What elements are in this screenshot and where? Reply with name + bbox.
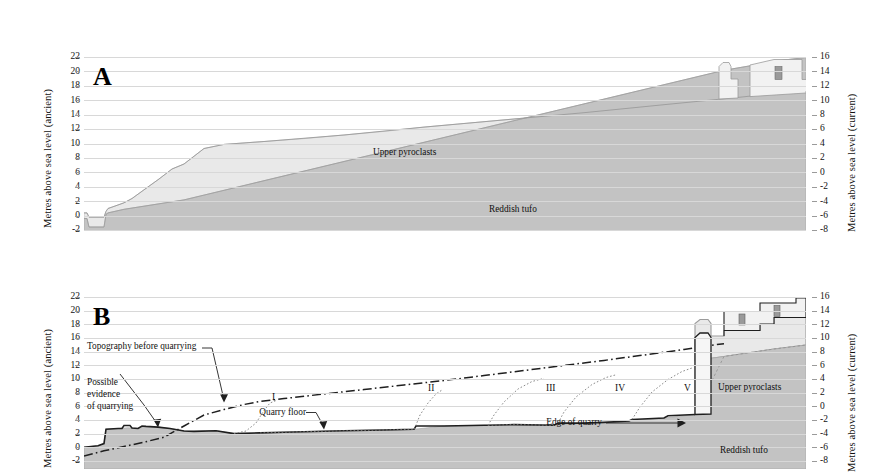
gridlines-a	[84, 57, 806, 231]
axis-tick-label: -2	[820, 415, 828, 425]
axis-tick-label: 14	[820, 306, 830, 316]
axis-tickmark	[75, 365, 80, 366]
axis-tick-label: 6	[820, 124, 825, 134]
axis-tickmark	[75, 434, 80, 435]
axis-tickmark	[75, 352, 80, 353]
gridline	[84, 434, 806, 435]
gridline	[84, 57, 806, 58]
axis-tick-label: 4	[820, 374, 825, 384]
possible-evidence-line2: evidence	[87, 388, 133, 400]
axis-tickmark	[75, 230, 80, 231]
gridline	[84, 201, 806, 202]
axis-tickmark	[812, 115, 817, 116]
axis-tickmark	[812, 324, 817, 325]
label-edge-of-quarry-b: Edge of quarry	[546, 417, 602, 428]
axis-tickmark	[812, 100, 817, 101]
axis-tick-label: 8	[820, 110, 825, 120]
quarry-stage-ii: II	[428, 383, 434, 393]
axis-tickmark	[75, 57, 80, 58]
axis-tickmark	[75, 201, 80, 202]
gridline	[84, 338, 806, 339]
axis-tickmark	[812, 158, 817, 159]
axis-tickmark	[812, 365, 817, 366]
axis-tickmark	[812, 201, 817, 202]
axis-tick-label: -6	[820, 211, 828, 221]
label-reddish-tufo-b: Reddish tufo	[720, 445, 768, 456]
axis-tickmark	[75, 447, 80, 448]
gridline	[84, 86, 806, 87]
cross-section-plot-b: Topography before quarrying Possible evi…	[84, 297, 806, 469]
axis-tick-label: 0	[820, 168, 825, 178]
axis-tickmark	[75, 461, 80, 462]
cross-section-plot-a: Upper pyroclasts Reddish tufo	[84, 57, 806, 231]
axis-tickmark	[75, 297, 80, 298]
quarry-stage-iv: IV	[615, 383, 625, 393]
axis-tickmark	[812, 379, 817, 380]
axis-tickmark	[75, 71, 80, 72]
axis-tick-label: 12	[820, 81, 830, 91]
y-axis-ticks-left-a: 2220181614121086420-2	[46, 0, 80, 252]
axis-tick-label: 0	[820, 402, 825, 412]
label-upper-pyroclasts-a: Upper pyroclasts	[373, 147, 436, 158]
axis-title-right-a: Metres above sea level (current)	[846, 62, 857, 232]
axis-tickmark	[812, 86, 817, 87]
axis-tick-label: -4	[820, 429, 828, 439]
axis-tick-label: 4	[820, 139, 825, 149]
label-reddish-tufo-a: Reddish tufo	[489, 204, 537, 215]
gridline	[84, 379, 806, 380]
axis-tickmark	[75, 420, 80, 421]
gridline	[84, 420, 806, 421]
axis-tickmark	[812, 447, 817, 448]
axis-title-right-b: Metres above sea level (current)	[846, 302, 857, 472]
axis-tick-label: 6	[820, 361, 825, 371]
axis-tickmark	[75, 406, 80, 407]
gridline	[84, 100, 806, 101]
axis-tickmark	[812, 420, 817, 421]
axis-tickmark	[812, 172, 817, 173]
axis-tickmark	[75, 311, 80, 312]
axis-tickmark	[812, 57, 817, 58]
panel-letter-a: A	[93, 62, 112, 92]
quarry-stage-i: I	[272, 392, 275, 402]
axis-tickmark	[812, 406, 817, 407]
label-topography-before-quarrying-b: Topography before quarrying	[87, 341, 196, 352]
axis-tick-label: 2	[820, 388, 825, 398]
gridline	[84, 71, 806, 72]
axis-tickmark	[812, 230, 817, 231]
axis-tick-label: 16	[820, 292, 830, 302]
gridline	[84, 187, 806, 188]
gridline	[84, 461, 806, 462]
axis-tickmark	[812, 187, 817, 188]
axis-tickmark	[75, 379, 80, 380]
axis-tickmark	[75, 172, 80, 173]
gridline	[84, 447, 806, 448]
axis-tick-label: 14	[820, 67, 830, 77]
gridline	[84, 144, 806, 145]
axis-tickmark	[812, 393, 817, 394]
axis-tick-label: 8	[820, 347, 825, 357]
panel-a: Metres above sea level (ancient) 2220181…	[0, 0, 885, 252]
axis-tickmark	[812, 144, 817, 145]
label-possible-evidence-b: Possible evidence of quarrying	[87, 376, 133, 412]
axis-tick-label: 10	[820, 333, 830, 343]
gridline	[84, 115, 806, 116]
axis-tickmark	[75, 338, 80, 339]
axis-tickmark	[812, 461, 817, 462]
axis-tickmark	[75, 86, 80, 87]
axis-tickmark	[75, 393, 80, 394]
axis-tickmark	[812, 216, 817, 217]
gridline	[84, 406, 806, 407]
axis-tickmark	[812, 311, 817, 312]
gridline	[84, 365, 806, 366]
axis-tickmark	[812, 434, 817, 435]
label-quarry-floor-b: Quarry floor	[259, 407, 306, 418]
axis-tickmark	[812, 129, 817, 130]
gridline	[84, 216, 806, 217]
axis-tickmark	[75, 129, 80, 130]
axis-tickmark	[75, 158, 80, 159]
possible-evidence-line1: Possible	[87, 376, 133, 388]
gridlines-b	[84, 297, 806, 469]
axis-tickmark	[75, 100, 80, 101]
gridline	[84, 158, 806, 159]
axis-tick-label: -8	[820, 225, 828, 235]
